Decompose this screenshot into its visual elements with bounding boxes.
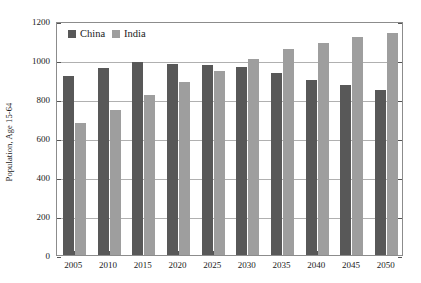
y-axis-tick-label: 800: [8, 95, 50, 105]
bar-china-2035: [271, 73, 282, 255]
bar-india-2035: [283, 49, 294, 255]
y-axis-tick-label: 1000: [8, 56, 50, 66]
legend-entry-china: China: [68, 28, 105, 39]
bar-india-2025: [214, 71, 225, 255]
bar-india-2010: [110, 110, 121, 255]
bar-india-2020: [179, 82, 190, 255]
y-axis-tick-label: 1200: [8, 17, 50, 27]
bar-china-2030: [236, 67, 247, 255]
axis-tick: [398, 257, 402, 258]
bar-india-2040: [318, 43, 329, 255]
legend-swatch-china: [68, 30, 76, 38]
y-axis-tick-label: 200: [8, 212, 50, 222]
bar-india-2045: [352, 37, 363, 255]
bar-china-2020: [167, 64, 178, 255]
bar-india-2030: [248, 59, 259, 255]
bar-china-2005: [63, 76, 74, 255]
axis-tick: [57, 257, 61, 258]
x-axis-tick-label: 2020: [168, 260, 186, 270]
legend-swatch-india: [112, 30, 120, 38]
x-axis-tick-label: 2010: [99, 260, 117, 270]
x-axis-tick-label: 2050: [377, 260, 395, 270]
y-axis-tick-label: 600: [8, 134, 50, 144]
x-axis-tick-label: 2015: [134, 260, 152, 270]
x-axis-tick-label: 2045: [342, 260, 360, 270]
y-axis-title-label: Population, Age 15-64: [4, 102, 14, 181]
x-axis-tick-labels: 2005201020152020202520302035204020452050: [56, 258, 403, 278]
bar-china-2040: [306, 80, 317, 255]
bars-layer: [57, 23, 402, 255]
bar-india-2005: [75, 123, 86, 255]
y-axis-title: Population, Age 15-64: [0, 0, 18, 283]
x-axis-tick-label: 2035: [273, 260, 291, 270]
bar-china-2050: [375, 90, 386, 255]
bar-china-2010: [98, 68, 109, 255]
bar-china-2015: [132, 62, 143, 255]
bar-india-2050: [387, 33, 398, 255]
y-axis-tick-label: 400: [8, 173, 50, 183]
y-axis-tick-label: 0: [8, 251, 50, 261]
bar-chart: Population, Age 15-64 020040060080010001…: [0, 0, 421, 283]
x-axis-tick-label: 2030: [238, 260, 256, 270]
legend-entry-india: India: [112, 28, 146, 39]
bar-india-2015: [144, 95, 155, 255]
plot-area: [56, 22, 403, 256]
legend-label-india: India: [124, 28, 146, 39]
x-axis-tick-label: 2005: [64, 260, 82, 270]
bar-china-2045: [340, 85, 351, 255]
bar-china-2025: [202, 65, 213, 255]
x-axis-tick-label: 2040: [307, 260, 325, 270]
x-axis-tick-label: 2025: [203, 260, 221, 270]
legend-label-china: China: [80, 28, 105, 39]
chart-legend: China India: [68, 28, 146, 39]
